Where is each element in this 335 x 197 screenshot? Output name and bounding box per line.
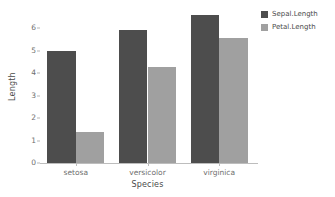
y-axis-tick-label: 2 bbox=[22, 114, 36, 122]
bar-chart: Length 0123456 Species Sepal.LengthPetal… bbox=[0, 0, 335, 197]
y-axis-tick-label: 6 bbox=[22, 24, 36, 32]
x-axis-title: Species bbox=[40, 180, 255, 189]
legend-swatch-icon bbox=[261, 11, 268, 18]
y-axis-tick-label: 5 bbox=[22, 47, 36, 55]
legend: Sepal.LengthPetal.Length bbox=[261, 9, 318, 35]
y-axis-tick-label: 0 bbox=[22, 159, 36, 167]
x-axis-line bbox=[40, 163, 258, 164]
y-axis-tick-label: 1 bbox=[22, 137, 36, 145]
y-axis-title: Length bbox=[8, 57, 17, 117]
bar-setosa-petal-length bbox=[76, 132, 105, 163]
bar-virginica-sepal-length bbox=[191, 15, 220, 163]
legend-item: Sepal.Length bbox=[261, 9, 318, 19]
legend-swatch-icon bbox=[261, 24, 268, 31]
y-axis-tick-mark bbox=[37, 118, 40, 119]
y-axis-tick-mark bbox=[37, 50, 40, 51]
y-axis-tick-mark bbox=[37, 140, 40, 141]
x-axis-tick-label: versicolor bbox=[129, 168, 166, 177]
y-axis-tick-mark bbox=[37, 73, 40, 74]
y-axis-tick-mark bbox=[37, 163, 40, 164]
legend-item: Petal.Length bbox=[261, 22, 318, 32]
bar-versicolor-sepal-length bbox=[119, 30, 148, 163]
y-axis-tick-labels: 0123456 bbox=[22, 0, 36, 197]
y-axis-tick-label: 4 bbox=[22, 69, 36, 77]
bar-virginica-petal-length bbox=[219, 38, 248, 163]
legend-item-label: Petal.Length bbox=[272, 24, 316, 31]
x-axis-tick-label: virginica bbox=[203, 168, 235, 177]
y-axis-tick-mark bbox=[37, 95, 40, 96]
x-axis-tick-mark bbox=[76, 163, 77, 166]
bar-setosa-sepal-length bbox=[47, 51, 76, 163]
bar-versicolor-petal-length bbox=[148, 67, 177, 163]
legend-item-label: Sepal.Length bbox=[272, 11, 318, 18]
x-axis-tick-label: setosa bbox=[64, 168, 89, 177]
y-axis-tick-label: 3 bbox=[22, 92, 36, 100]
x-axis-tick-mark bbox=[148, 163, 149, 166]
x-axis-tick-mark bbox=[219, 163, 220, 166]
y-axis-tick-mark bbox=[37, 28, 40, 29]
